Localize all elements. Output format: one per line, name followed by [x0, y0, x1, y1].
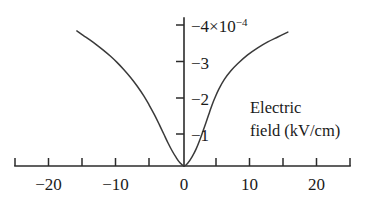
x-axis-caption-line1: Electric	[250, 98, 301, 117]
x-tick-label--10: −10	[102, 175, 129, 194]
x-tick-label--20: −20	[35, 175, 62, 194]
x-tick-label-10: 10	[241, 175, 258, 194]
y-tick-label--4: −4×10−4	[191, 16, 248, 36]
electroabsorption-figure: −4×10−4 −3 −2 −1 −20 −10 0 10 20 Electri…	[0, 0, 367, 208]
y-tick-label--1: −1	[191, 126, 209, 145]
y-tick-label--2: −2	[191, 90, 209, 109]
x-tick-label-0: 0	[180, 175, 189, 194]
x-tick-label-20: 20	[308, 175, 325, 194]
y-tick-label--3: −3	[191, 54, 209, 73]
chart-canvas: −4×10−4 −3 −2 −1 −20 −10 0 10 20 Electri…	[0, 0, 367, 208]
x-axis-caption-line2: field (kV/cm)	[250, 121, 340, 140]
